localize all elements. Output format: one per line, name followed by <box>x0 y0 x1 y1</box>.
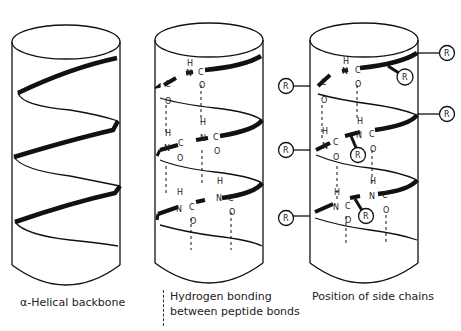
svg-text:N: N <box>176 205 182 214</box>
svg-text:C: C <box>321 78 327 87</box>
svg-text:H: H <box>200 118 206 127</box>
svg-text:O: O <box>383 206 389 215</box>
svg-text:C: C <box>213 133 219 142</box>
svg-text:O: O <box>190 217 196 226</box>
caption-hbonds-line1: Hydrogen bonding <box>170 290 272 303</box>
svg-text:N: N <box>342 67 348 76</box>
svg-text:R: R <box>283 214 289 223</box>
svg-text:O: O <box>229 208 235 217</box>
svg-text:C: C <box>345 202 351 211</box>
svg-text:O: O <box>370 145 376 154</box>
svg-text:N: N <box>369 192 375 201</box>
cylinder-hbonds <box>155 23 263 283</box>
svg-text:R: R <box>283 146 289 155</box>
svg-text:R: R <box>363 212 369 221</box>
svg-text:H: H <box>165 129 171 138</box>
svg-text:C: C <box>228 194 234 203</box>
svg-text:R: R <box>444 49 450 58</box>
svg-text:O: O <box>333 153 339 162</box>
caption-backbone: α-Helical backbone <box>20 296 125 309</box>
hydrogen-bonds-sidechains <box>322 85 386 245</box>
r-groups <box>279 46 455 226</box>
svg-text:O: O <box>165 97 171 106</box>
cylinder-sidechains <box>293 23 440 283</box>
svg-text:O: O <box>214 147 220 156</box>
svg-text:C: C <box>333 138 339 147</box>
r-labels: R R R R R R R R <box>283 49 450 223</box>
svg-text:C: C <box>382 191 388 200</box>
svg-text:O: O <box>345 216 351 225</box>
dashed-line-legend-icon <box>163 290 164 326</box>
caption-sidechains: Position of side chains <box>312 290 434 303</box>
svg-text:N: N <box>164 144 170 153</box>
svg-text:H: H <box>217 177 223 186</box>
svg-text:R: R <box>283 82 289 91</box>
svg-text:C: C <box>369 130 375 139</box>
svg-text:N: N <box>216 194 222 203</box>
svg-text:R: R <box>402 73 408 82</box>
svg-text:O: O <box>321 96 327 105</box>
svg-text:H: H <box>343 57 349 66</box>
svg-text:C: C <box>165 80 171 89</box>
svg-text:H: H <box>357 117 363 126</box>
svg-text:R: R <box>444 110 450 119</box>
svg-text:N: N <box>200 134 206 143</box>
svg-text:C: C <box>178 139 184 148</box>
cylinder-backbone <box>12 25 120 285</box>
svg-text:R: R <box>355 151 361 160</box>
svg-text:O: O <box>199 81 205 90</box>
svg-text:H: H <box>322 127 328 136</box>
hydrogen-bonds <box>166 85 231 250</box>
svg-text:H: H <box>187 59 193 68</box>
alpha-helix-diagram: H N C O C O H N C O H N C O H N C O H N … <box>0 0 461 331</box>
svg-text:C: C <box>355 66 361 75</box>
svg-text:N: N <box>333 203 339 212</box>
svg-text:H: H <box>334 188 340 197</box>
svg-text:C: C <box>198 68 204 77</box>
svg-text:H: H <box>177 188 183 197</box>
svg-text:N: N <box>356 131 362 140</box>
svg-text:N: N <box>186 69 192 78</box>
svg-text:H: H <box>370 177 376 186</box>
caption-hbonds-line2: between peptide bonds <box>170 305 300 318</box>
svg-text:O: O <box>177 154 183 163</box>
svg-text:O: O <box>355 80 361 89</box>
svg-text:N: N <box>322 142 328 151</box>
svg-text:C: C <box>189 203 195 212</box>
